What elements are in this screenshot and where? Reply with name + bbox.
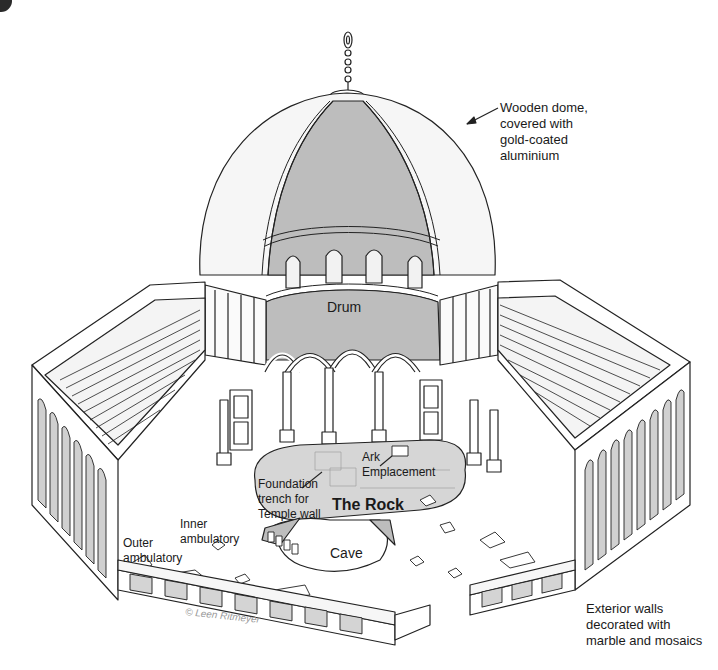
cave: [262, 518, 395, 571]
right-roof-and-wall: [498, 280, 690, 590]
label-drum: Drum: [327, 299, 361, 315]
label-ark-emplacement: Ark Emplacement: [362, 450, 435, 480]
label-cave: Cave: [330, 545, 363, 561]
dome: [200, 93, 495, 302]
label-outer-ambulatory: Outer ambulatory: [123, 536, 182, 566]
label-the-rock: The Rock: [332, 496, 404, 514]
dome-cutaway-diagram: Wooden dome, covered with gold-coated al…: [0, 0, 718, 670]
label-inner-ambulatory: Inner ambulatory: [180, 517, 239, 547]
finial: [330, 32, 364, 102]
label-dome: Wooden dome, covered with gold-coated al…: [500, 100, 588, 164]
label-foundation-trench: Foundation trench for Temple wall: [258, 477, 321, 522]
front-wall: [118, 560, 575, 645]
label-exterior-walls: Exterior walls decorated with marble and…: [586, 601, 702, 649]
diagram-drawing: [0, 0, 718, 670]
